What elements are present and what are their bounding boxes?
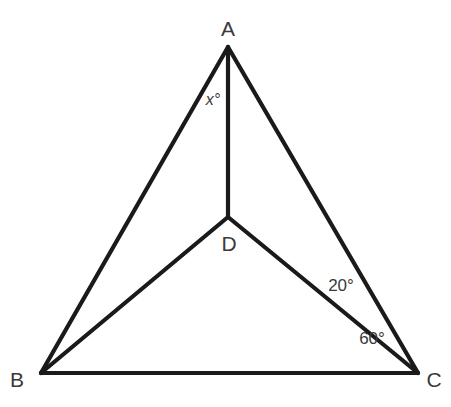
segment-DC [228,217,418,373]
segments-group [41,47,418,373]
vertex-label-c: C [426,369,441,390]
vertex-label-d: D [221,233,236,254]
angle-label-x: x° [206,92,220,108]
segment-BD [41,217,228,373]
segment-AC [228,47,418,373]
geometry-figure: A B C D x° 20° 60° [0,0,451,407]
vertex-label-a: A [221,18,235,39]
angle-label-60-degrees: 60° [359,330,385,347]
segment-AB [41,47,228,373]
vertex-label-b: B [10,369,24,390]
angle-label-20-degrees: 20° [328,277,354,294]
